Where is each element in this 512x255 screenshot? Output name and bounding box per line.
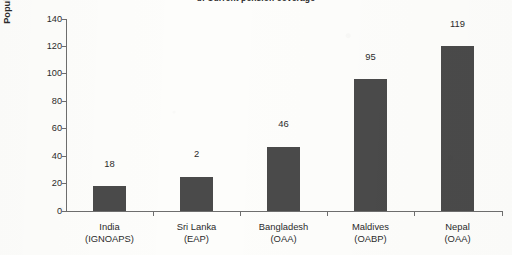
- y-tick-140: 140: [22, 15, 62, 24]
- bar-india: [93, 186, 126, 211]
- y-tick-mark-140: [62, 19, 66, 20]
- y-tick-label-100: 100: [28, 69, 62, 78]
- y-tick-label-20: 20: [28, 179, 62, 188]
- y-tick-mark-20: [62, 183, 66, 184]
- y-tick-60: 60: [22, 124, 62, 133]
- y-tick-label-140: 140: [28, 15, 62, 24]
- x-axis-line: [66, 211, 503, 212]
- y-tick-mark-80: [62, 101, 66, 102]
- bar-value-india: 18: [75, 158, 145, 169]
- y-tick-label-120: 120: [28, 42, 62, 51]
- y-tick-80: 80: [22, 97, 62, 106]
- bar-nepal: [441, 46, 474, 211]
- x-tick-sep-4: [414, 212, 415, 216]
- bar-value-sri-lanka: 2: [162, 148, 232, 159]
- y-tick-0: 0: [22, 207, 62, 216]
- x-tick-sep-3: [327, 212, 328, 216]
- x-tick-sep-1: [153, 212, 154, 216]
- y-tick-label-80: 80: [28, 97, 62, 106]
- plot-area: 140 120 100 80 60 40 20 0 18 2 46 95: [0, 0, 512, 255]
- y-tick-120: 120: [22, 42, 62, 51]
- x-category-nepal: Nepal (OAA): [406, 221, 510, 244]
- x-category-nepal-scheme: (OAA): [406, 233, 510, 245]
- y-tick-20: 20: [22, 179, 62, 188]
- x-category-nepal-name: Nepal: [406, 221, 510, 233]
- y-tick-mark-100: [62, 73, 66, 74]
- x-tick-sep-2: [240, 212, 241, 216]
- bar-value-bangladesh: 46: [249, 118, 319, 129]
- y-tick-40: 40: [22, 152, 62, 161]
- y-tick-mark-60: [62, 128, 66, 129]
- chart-title: b. Current pension coverage: [0, 0, 512, 3]
- y-tick-mark-40: [62, 156, 66, 157]
- y-tick-label-60: 60: [28, 124, 62, 133]
- x-tick-sep-5: [502, 212, 503, 216]
- bar-sri-lanka: [180, 177, 213, 211]
- y-tick-label-40: 40: [28, 152, 62, 161]
- y-axis-line: [66, 19, 67, 212]
- bar-maldives: [354, 79, 387, 211]
- bar-value-nepal: 119: [423, 18, 493, 29]
- y-tick-mark-0: [62, 211, 66, 212]
- bar-value-maldives: 95: [336, 51, 406, 62]
- bar-bangladesh: [267, 147, 300, 212]
- y-tick-100: 100: [22, 69, 62, 78]
- y-tick-label-0: 0: [28, 207, 62, 216]
- y-tick-mark-120: [62, 46, 66, 47]
